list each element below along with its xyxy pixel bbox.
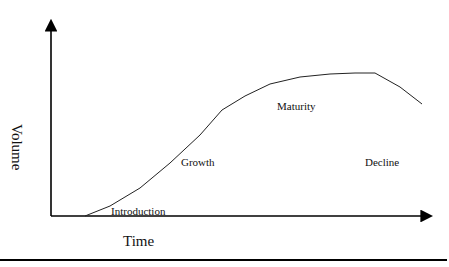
life-cycle-curve <box>85 73 422 216</box>
stage-label-maturity: Maturity <box>277 101 316 112</box>
y-axis-label: Volume <box>9 124 24 170</box>
stage-label-introduction: Introduction <box>111 206 165 217</box>
x-axis-label: Time <box>123 234 154 249</box>
diagram-canvas <box>0 0 449 267</box>
stage-label-decline: Decline <box>365 157 399 168</box>
stage-label-growth: Growth <box>181 157 215 168</box>
product-life-cycle-diagram: Volume Time Introduction Growth Maturity… <box>0 0 449 267</box>
